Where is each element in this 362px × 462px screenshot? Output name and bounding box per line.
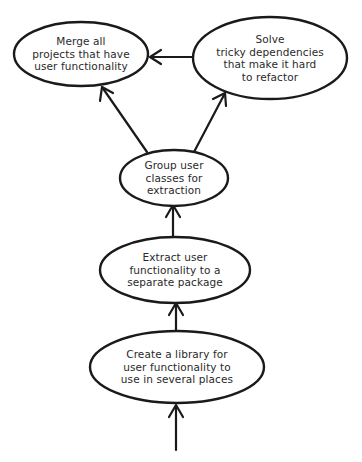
edge-extract-to-group xyxy=(166,205,180,237)
edge-group-to-solve xyxy=(194,93,226,152)
edge-create-to-extract xyxy=(169,303,183,331)
node-create-line-1: Create a library for xyxy=(126,348,228,361)
edge-solve-to-merge xyxy=(150,50,193,64)
node-create-line-2: user functionality to xyxy=(123,361,231,374)
node-group-line-3: extraction xyxy=(147,184,201,197)
node-solve-line-1: Solve xyxy=(255,33,284,46)
node-create-label: Create a library for user functionality … xyxy=(90,331,264,403)
node-solve-label: Solve tricky dependencies that make it h… xyxy=(193,17,347,99)
node-group-line-1: Group user xyxy=(144,159,203,172)
node-merge-line-3: user functionality xyxy=(34,60,128,73)
edge-start-to-create xyxy=(169,405,183,450)
node-extract-label: Extract user functionality to a separate… xyxy=(100,237,250,303)
edge-group-to-merge xyxy=(100,87,147,152)
node-solve-line-2: tricky dependencies xyxy=(216,46,324,59)
node-group-line-2: classes for xyxy=(146,172,203,185)
node-group-label: Group user classes for extraction xyxy=(120,150,228,206)
node-extract-line-2: functionality to a xyxy=(130,264,221,277)
node-extract-line-3: separate package xyxy=(127,276,223,289)
node-extract-line-1: Extract user xyxy=(142,251,207,264)
node-merge-line-2: projects that have xyxy=(32,48,129,61)
node-create-line-3: use in several places xyxy=(121,373,233,386)
node-solve-line-3: that make it hard xyxy=(224,58,317,71)
node-merge-label: Merge all projects that have user functi… xyxy=(14,22,148,86)
node-merge-line-1: Merge all xyxy=(56,35,105,48)
node-solve-line-4: to refactor xyxy=(242,71,298,84)
